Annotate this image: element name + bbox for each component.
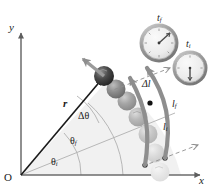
dot-marker-delta-top: [147, 100, 152, 105]
theta-initial-label: θi: [51, 157, 58, 168]
figure-canvas: [0, 0, 214, 191]
delta-theta-label: Δθ: [78, 111, 89, 121]
clock-initial-label: ti: [186, 39, 191, 50]
delta-l-label: Δl: [142, 79, 151, 89]
radius-vector-label: r: [63, 98, 67, 109]
clock-final-label: tf: [157, 13, 162, 24]
arc-length-final-label: lf: [172, 99, 177, 110]
y-axis-label: y: [9, 22, 14, 33]
clock-final: [140, 24, 179, 63]
angular-displacement-figure: y x O r Δθ θf θi Δl lf li tf ti: [0, 0, 214, 191]
x-axis-label: x: [199, 175, 204, 186]
clock-initial: [173, 51, 208, 86]
sphere-7: [151, 163, 170, 182]
theta-final-label: θf: [70, 136, 77, 147]
origin-label: O: [4, 172, 12, 183]
arc-length-initial-label: li: [163, 122, 168, 133]
